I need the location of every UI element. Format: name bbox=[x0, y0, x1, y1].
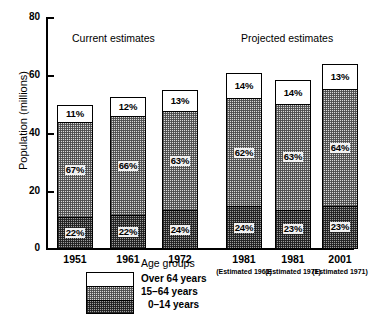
y-tick-0 bbox=[48, 248, 54, 250]
y-tick-60 bbox=[48, 75, 54, 77]
bar-1972-segment-15-64: 63% bbox=[163, 111, 197, 210]
bar-2001-label-0-14: 23% bbox=[330, 222, 350, 232]
bar-1981b-segment-over-64: 14% bbox=[276, 81, 310, 104]
bar-1951: 11% 67% 22% bbox=[57, 105, 93, 249]
bar-2001-label-over-64: 13% bbox=[330, 72, 350, 82]
x-sublabel-2001: (Estimated 1971) bbox=[310, 268, 370, 276]
y-tick-label-80: 80 bbox=[14, 12, 40, 22]
bar-1972-segment-0-14: 24% bbox=[163, 210, 197, 248]
bar-1981a-segment-over-64: 14% bbox=[227, 74, 261, 98]
bar-1951-label-0-14: 22% bbox=[65, 228, 85, 238]
y-tick-label-60: 60 bbox=[14, 70, 40, 80]
bar-2001-est-1971: 13% 64% 23% bbox=[322, 64, 358, 249]
bar-1981b-segment-0-14: 23% bbox=[276, 210, 310, 248]
bar-1981b-segment-15-64: 63% bbox=[276, 104, 310, 209]
y-tick-label-40: 40 bbox=[14, 128, 40, 138]
y-axis-title: Population (millions) bbox=[18, 46, 29, 196]
x-label-2001: 2001 bbox=[310, 254, 370, 265]
bar-1961-label-over-64: 12% bbox=[118, 102, 138, 112]
bar-1981a-segment-15-64: 62% bbox=[227, 98, 261, 206]
legend-swatch-stack bbox=[86, 272, 134, 314]
bar-1981a-label-over-64: 14% bbox=[234, 81, 254, 91]
stacked-bar-chart: Population (millions) 80 60 40 20 0 Curr… bbox=[0, 0, 374, 324]
bar-1961-segment-15-64: 66% bbox=[111, 116, 145, 215]
bar-1972-label-0-14: 24% bbox=[170, 225, 190, 235]
legend-swatch-over-64 bbox=[87, 273, 133, 286]
bar-1981a-label-15-64: 62% bbox=[234, 148, 254, 158]
bar-1961-label-0-14: 22% bbox=[118, 227, 138, 237]
bar-1972-label-15-64: 63% bbox=[170, 156, 190, 166]
bar-1961-label-15-64: 66% bbox=[118, 161, 138, 171]
bar-1972: 13% 63% 24% bbox=[162, 90, 198, 249]
x-label-1951: 1951 bbox=[45, 254, 105, 265]
bar-1981b-label-over-64: 14% bbox=[283, 88, 303, 98]
y-tick-label-0: 0 bbox=[14, 243, 40, 253]
bar-1951-segment-0-14: 22% bbox=[58, 217, 92, 248]
y-tick-label-20: 20 bbox=[14, 186, 40, 196]
panel-title-projected: Projected estimates bbox=[241, 33, 333, 44]
bar-2001-segment-0-14: 23% bbox=[323, 206, 357, 248]
legend-title: Age groups bbox=[141, 258, 195, 269]
panel-title-current: Current estimates bbox=[72, 33, 155, 44]
bar-1961-segment-over-64: 12% bbox=[111, 98, 145, 116]
y-tick-40 bbox=[48, 133, 54, 135]
y-tick-80 bbox=[48, 17, 54, 19]
bar-1972-segment-over-64: 13% bbox=[163, 91, 197, 111]
bar-2001-label-15-64: 64% bbox=[330, 143, 350, 153]
bar-2001-segment-over-64: 13% bbox=[323, 65, 357, 89]
bar-1981a-segment-0-14: 24% bbox=[227, 206, 261, 248]
legend-label-15-64: 15–64 years bbox=[141, 286, 198, 297]
plot-area: Population (millions) 80 60 40 20 0 Curr… bbox=[0, 0, 374, 324]
legend-swatch-0-14 bbox=[87, 300, 133, 313]
bar-2001-segment-15-64: 64% bbox=[323, 89, 357, 206]
bar-1981-est-1961: 14% 62% 24% bbox=[226, 73, 262, 249]
legend-label-0-14: 0–14 years bbox=[141, 299, 199, 310]
legend-swatch-15-64 bbox=[87, 286, 133, 299]
bar-1951-segment-over-64: 11% bbox=[58, 106, 92, 122]
legend-label-over-64: Over 64 years bbox=[141, 273, 207, 284]
bar-1981a-label-0-14: 24% bbox=[234, 223, 254, 233]
bar-1951-label-over-64: 11% bbox=[65, 109, 85, 119]
bar-1961-segment-0-14: 22% bbox=[111, 215, 145, 248]
bar-1951-label-15-64: 67% bbox=[65, 165, 85, 175]
y-tick-20 bbox=[48, 191, 54, 193]
bar-1972-label-over-64: 13% bbox=[170, 96, 190, 106]
bar-1951-segment-15-64: 67% bbox=[58, 122, 92, 217]
bar-1961: 12% 66% 22% bbox=[110, 97, 146, 249]
bar-1981-est-1971: 14% 63% 23% bbox=[275, 80, 311, 249]
bar-1981b-label-0-14: 23% bbox=[283, 224, 303, 234]
bar-1981b-label-15-64: 63% bbox=[283, 152, 303, 162]
